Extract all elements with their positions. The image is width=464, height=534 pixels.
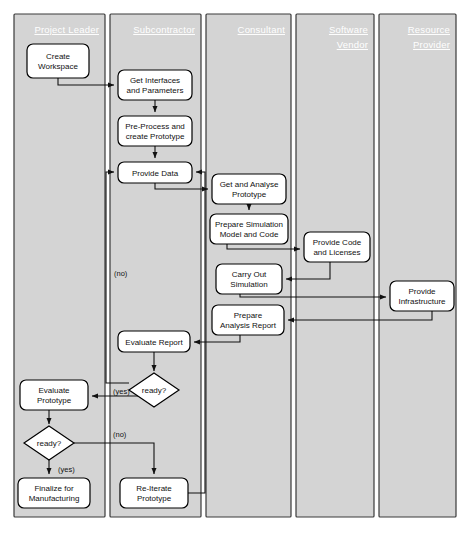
lane-title-consultant: Consultant (238, 24, 286, 35)
node-label-pre-process: Pre-Process and (125, 122, 185, 131)
lane-title-resource-provider: Resource (408, 24, 450, 35)
lane-title-software-vendor: Software (329, 24, 368, 35)
node-evaluate-report[interactable]: Evaluate Report (118, 331, 190, 352)
swimlane-diagram-canvas: Project LeaderSubcontractorConsultantSof… (0, 0, 464, 534)
lane-title-resource-provider: Provider (413, 39, 450, 50)
edge-label-label-no-prototype: (no) (113, 430, 127, 439)
node-get-interfaces[interactable]: Get Interfacesand Parameters (118, 70, 192, 100)
node-label-prepare-simulation: Prepare Simulation (215, 220, 283, 229)
edge-label-label-yes-report: (yes) (113, 387, 130, 396)
node-label-get-interfaces: and Parameters (127, 86, 184, 95)
node-label-finalize-manufacturing: Finalize for (34, 484, 73, 493)
node-label-prepare-analysis: Prepare (234, 311, 263, 320)
lane-title-software-vendor: Vendor (337, 39, 368, 50)
node-label-create-workspace: Workspace (38, 62, 78, 71)
lane-software-vendor[interactable]: SoftwareVendor (296, 14, 374, 517)
node-label-evaluate-report: Evaluate Report (125, 338, 183, 347)
node-label-provide-infrastructure: Provide (408, 287, 436, 296)
node-label-finalize-manufacturing: Manufacturing (29, 494, 80, 503)
node-provide-data[interactable]: Provide Data (118, 162, 192, 183)
node-prepare-simulation[interactable]: Prepare SimulationModel and Code (210, 214, 288, 244)
decision-label-ready-prototype: ready? (37, 439, 62, 448)
node-provide-code[interactable]: Provide Codeand Licenses (304, 232, 370, 262)
node-re-iterate-prototype[interactable]: Re-IteratePrototype (120, 478, 188, 508)
lane-background-software-vendor (296, 14, 374, 517)
node-label-get-analyse-prototype: Prototype (232, 190, 267, 199)
node-label-get-analyse-prototype: Get and Analyse (220, 180, 279, 189)
node-label-provide-code: and Licenses (313, 248, 360, 257)
edge-label-label-no-report: (no) (114, 269, 128, 278)
node-label-evaluate-prototype: Prototype (37, 396, 72, 405)
node-label-provide-infrastructure: Infrastructure (398, 297, 446, 306)
node-pre-process[interactable]: Pre-Process andcreate Prototype (118, 116, 192, 146)
node-label-prepare-analysis: Analysis Report (220, 321, 277, 330)
node-provide-infrastructure[interactable]: ProvideInfrastructure (390, 281, 454, 311)
node-label-pre-process: create Prototype (126, 132, 185, 141)
node-label-provide-data: Provide Data (132, 169, 179, 178)
node-prepare-analysis[interactable]: PrepareAnalysis Report (212, 305, 284, 335)
node-label-re-iterate-prototype: Re-Iterate (136, 484, 172, 493)
node-label-evaluate-prototype: Evaluate (38, 386, 70, 395)
node-create-workspace[interactable]: CreateWorkspace (27, 44, 89, 78)
lane-title-subcontractor: Subcontractor (133, 24, 195, 35)
edge-label-label-yes-prototype: (yes) (58, 465, 75, 474)
node-finalize-manufacturing[interactable]: Finalize forManufacturing (18, 478, 90, 508)
node-label-create-workspace: Create (46, 52, 71, 61)
node-label-provide-code: Provide Code (313, 238, 362, 247)
decision-label-ready-report: ready? (142, 386, 167, 395)
lane-title-project-leader: Project Leader (34, 24, 99, 35)
node-label-carry-out-simulation: Simulation (230, 280, 267, 289)
node-label-get-interfaces: Get Interfaces (130, 76, 180, 85)
node-label-re-iterate-prototype: Prototype (137, 494, 172, 503)
node-evaluate-prototype[interactable]: EvaluatePrototype (20, 380, 88, 410)
node-label-carry-out-simulation: Carry Out (232, 270, 267, 279)
lane-background-resource-provider (379, 14, 456, 517)
node-label-prepare-simulation: Model and Code (220, 230, 279, 239)
lane-resource-provider[interactable]: ResourceProvider (379, 14, 456, 517)
node-carry-out-simulation[interactable]: Carry OutSimulation (216, 264, 282, 294)
process-flow-diagram: Project LeaderSubcontractorConsultantSof… (0, 0, 464, 534)
node-get-analyse-prototype[interactable]: Get and AnalysePrototype (212, 174, 286, 204)
